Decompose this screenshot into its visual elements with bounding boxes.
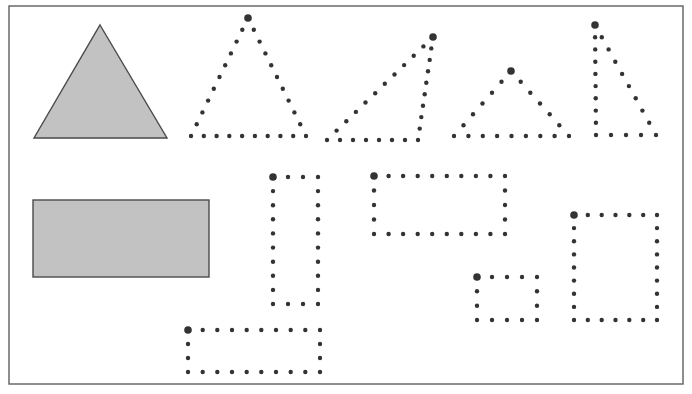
trace-dot <box>459 174 463 178</box>
trace-dot <box>316 203 320 207</box>
trace-dot <box>274 370 278 374</box>
trace-dot <box>572 265 576 269</box>
trace-dot <box>266 134 270 138</box>
trace-dot <box>593 47 597 51</box>
trace-dot <box>490 318 494 322</box>
trace-dot <box>459 232 463 236</box>
trace-dot <box>572 318 576 322</box>
trace-dot <box>572 305 576 309</box>
trace-dot <box>593 72 597 76</box>
trace-dot <box>334 128 338 132</box>
trace-dot <box>557 123 561 127</box>
trace-dot <box>538 101 542 105</box>
trace-dot <box>259 328 263 332</box>
start-dot <box>429 33 437 41</box>
trace-dot <box>481 134 485 138</box>
trace-dot <box>572 252 576 256</box>
trace-dot <box>234 39 238 43</box>
trace-dot <box>594 108 598 112</box>
trace-dot <box>240 134 244 138</box>
trace-dot <box>364 138 368 142</box>
trace-dot <box>351 138 355 142</box>
trace-dot <box>271 245 275 249</box>
trace-dot <box>245 370 249 374</box>
shape-tracing-worksheet <box>0 0 692 394</box>
trace-dot <box>412 54 416 58</box>
trace-dot <box>429 46 433 50</box>
trace-dot <box>303 370 307 374</box>
trace-dot <box>613 60 617 64</box>
trace-dot <box>286 98 290 102</box>
trace-dot <box>572 292 576 296</box>
trace-dot <box>647 121 651 125</box>
trace-dot <box>372 203 376 207</box>
trace-dot <box>372 188 376 192</box>
trace-dot <box>495 134 499 138</box>
trace-dot <box>252 28 256 32</box>
trace-dot <box>606 47 610 51</box>
trace-dot <box>609 133 613 137</box>
trace-dot <box>240 28 244 32</box>
trace-dot <box>471 112 475 116</box>
trace-dot <box>271 274 275 278</box>
trace-dot <box>377 138 381 142</box>
trace-dot <box>627 318 631 322</box>
start-dot <box>507 67 515 75</box>
trace-dot <box>594 133 598 137</box>
trace-dot <box>186 370 190 374</box>
trace-dot <box>535 304 539 308</box>
trace-dot <box>520 275 524 279</box>
trace-dot <box>634 96 638 100</box>
trace-dot <box>318 370 322 374</box>
trace-dot <box>600 213 604 217</box>
trace-dot <box>245 328 249 332</box>
trace-dot <box>301 175 305 179</box>
trace-dot <box>217 75 221 79</box>
trace-dot <box>227 134 231 138</box>
trace-dot <box>316 302 320 306</box>
trace-dot <box>535 275 539 279</box>
trace-dot <box>655 226 659 230</box>
trace-dot <box>186 342 190 346</box>
trace-dot <box>535 289 539 293</box>
trace-dot <box>215 370 219 374</box>
trace-dot <box>271 203 275 207</box>
trace-dot <box>430 232 434 236</box>
trace-dot <box>475 318 479 322</box>
trace-dot <box>274 328 278 332</box>
trace-dot <box>480 101 484 105</box>
trace-dot <box>503 188 507 192</box>
trace-dot <box>316 274 320 278</box>
trace-dot <box>259 370 263 374</box>
trace-dot <box>586 213 590 217</box>
trace-dot <box>419 115 423 119</box>
trace-dot <box>392 72 396 76</box>
trace-dot <box>271 302 275 306</box>
trace-dot <box>624 133 628 137</box>
trace-dot <box>230 370 234 374</box>
trace-dot <box>303 328 307 332</box>
trace-dot <box>383 82 387 86</box>
start-dot <box>591 21 599 29</box>
trace-dot <box>424 81 428 85</box>
trace-dot <box>528 91 532 95</box>
trace-dot <box>195 122 199 126</box>
trace-dot <box>641 213 645 217</box>
trace-dot <box>418 126 422 130</box>
trace-dot <box>229 51 233 55</box>
trace-dot <box>452 134 456 138</box>
trace-dot <box>520 318 524 322</box>
trace-dot <box>627 84 631 88</box>
trace-dot <box>655 278 659 282</box>
trace-dot <box>552 134 556 138</box>
trace-dot <box>289 328 293 332</box>
trace-dot <box>641 318 645 322</box>
trace-dot <box>363 100 367 104</box>
trace-dot <box>416 138 420 142</box>
trace-dot <box>372 232 376 236</box>
trace-dot <box>271 231 275 235</box>
trace-dot <box>600 318 604 322</box>
trace-dot <box>298 122 302 126</box>
trace-dot <box>271 217 275 221</box>
trace-dot <box>600 35 604 39</box>
